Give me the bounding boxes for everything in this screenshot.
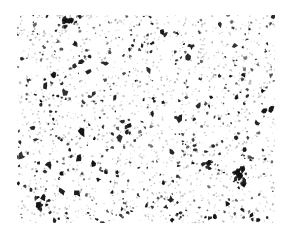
speckle-image	[0, 0, 289, 234]
speckle-field	[17, 15, 275, 223]
